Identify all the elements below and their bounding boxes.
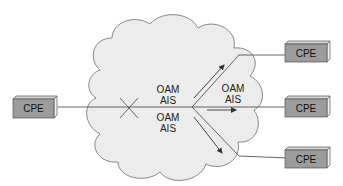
label-ais-upper: AIS [160, 95, 176, 106]
label-oam-upper: OAM [157, 84, 180, 95]
label-oam-lower: OAM [157, 112, 180, 123]
label-ais-lower: AIS [160, 123, 176, 134]
label-ais-right: AIS [225, 94, 241, 105]
cpe-top-right-label: CPE [296, 48, 317, 59]
cpe-left-label: CPE [23, 103, 44, 114]
cpe-bottom-right-label: CPE [296, 154, 317, 165]
cpe-top-right: CPE [285, 41, 330, 62]
cpe-mid-right-label: CPE [296, 103, 317, 114]
cpe-left: CPE [13, 96, 57, 118]
label-oam-right: OAM [222, 83, 245, 94]
cpe-bottom-right: CPE [285, 147, 330, 168]
network-diagram: OAM AIS OAM AIS OAM AIS CPE CPE CPE CPE [0, 0, 343, 186]
cpe-mid-right: CPE [285, 96, 330, 117]
